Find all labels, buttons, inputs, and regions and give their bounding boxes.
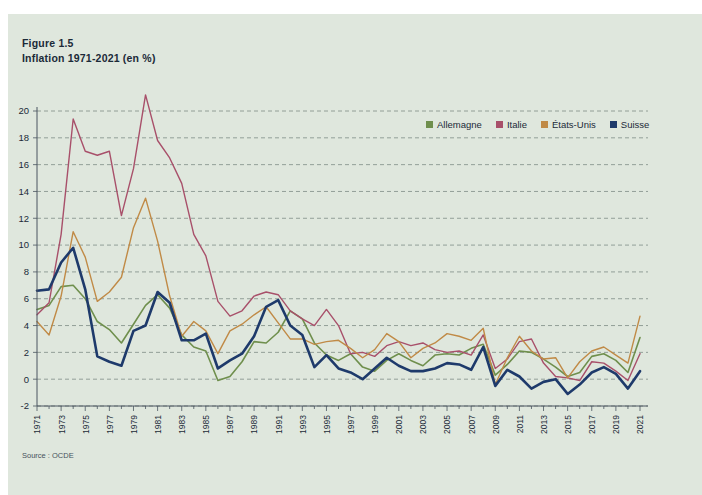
inflation-line-chart: -202468101214161820 19711973197519771979… xyxy=(8,14,702,495)
series-line-allemagne xyxy=(37,285,640,380)
legend-swatch-icon xyxy=(610,121,617,128)
x-axis-tick-label: 1975 xyxy=(81,415,91,434)
x-axis-tick-label: 2019 xyxy=(611,415,621,434)
gridlines-group xyxy=(33,111,648,406)
legend-item--tats-unis[interactable]: États-Unis xyxy=(541,119,596,130)
legend-item-italie[interactable]: Italie xyxy=(496,119,527,130)
y-axis-tick-label: 2 xyxy=(24,347,29,358)
y-axis-tick-label: -2 xyxy=(21,400,29,411)
x-axis-tick-label: 2011 xyxy=(515,415,525,434)
x-axis-tick-label: 2009 xyxy=(491,415,501,434)
x-axis-tick-label: 1981 xyxy=(153,415,163,434)
x-axis-tick-label: 2021 xyxy=(635,415,645,434)
y-axis-tick-label: 4 xyxy=(24,320,29,331)
y-axis-tick-label: 8 xyxy=(24,266,29,277)
axis-tickmarks xyxy=(37,406,640,411)
y-axis-labels: -202468101214161820 xyxy=(18,105,29,411)
x-axis-tick-label: 2005 xyxy=(442,415,452,434)
chart-plot-area: -202468101214161820 19711973197519771979… xyxy=(8,14,702,495)
legend-label: États-Unis xyxy=(552,119,596,130)
legend-item-allemagne[interactable]: Allemagne xyxy=(426,119,482,130)
x-axis-tick-label: 2015 xyxy=(563,415,573,434)
x-axis-tick-label: 1995 xyxy=(322,415,332,434)
legend-label: Allemagne xyxy=(437,119,482,130)
series-line-suisse xyxy=(37,248,640,394)
legend-label: Italie xyxy=(507,119,527,130)
x-axis-tick-label: 2013 xyxy=(539,415,549,434)
figure-panel: Figure 1.5 Inflation 1971-2021 (en %) -2… xyxy=(8,14,702,495)
legend-label: Suisse xyxy=(621,119,650,130)
x-axis-tick-label: 2001 xyxy=(394,415,404,434)
x-axis-tick-label: 1997 xyxy=(346,415,356,434)
x-axis-tick-label: 1985 xyxy=(201,415,211,434)
legend-swatch-icon xyxy=(426,121,433,128)
series-lines-group xyxy=(37,95,640,394)
y-axis-tick-label: 0 xyxy=(24,374,29,385)
y-axis-tick-label: 18 xyxy=(18,132,29,143)
x-axis-tick-label: 2017 xyxy=(587,415,597,434)
x-axis-tick-label: 1979 xyxy=(129,415,139,434)
chart-legend: AllemagneItalieÉtats-UnisSuisse xyxy=(426,119,649,130)
legend-swatch-icon xyxy=(541,121,548,128)
y-axis-tick-label: 6 xyxy=(24,293,29,304)
y-axis-tick-label: 20 xyxy=(18,105,29,116)
y-axis-tick-label: 12 xyxy=(18,213,29,224)
x-axis-tick-label: 1993 xyxy=(298,415,308,434)
y-axis-tick-label: 16 xyxy=(18,159,29,170)
x-axis-tick-label: 1991 xyxy=(274,415,284,434)
x-axis-tick-label: 1999 xyxy=(370,415,380,434)
x-axis-tick-label: 1977 xyxy=(105,415,115,434)
x-axis-tick-label: 1989 xyxy=(249,415,259,434)
x-axis-labels: 1971197319751977197919811983198519871989… xyxy=(32,415,645,434)
y-axis-tick-label: 14 xyxy=(18,186,29,197)
x-axis-tick-label: 2007 xyxy=(467,415,477,434)
legend-swatch-icon xyxy=(496,121,503,128)
y-axis-tick-label: 10 xyxy=(18,239,29,250)
x-axis-tick-label: 1973 xyxy=(57,415,67,434)
x-axis-tick-label: 1971 xyxy=(32,415,42,434)
x-axis-tick-label: 2003 xyxy=(418,415,428,434)
series-line--tats-unis xyxy=(37,198,640,384)
legend-item-suisse[interactable]: Suisse xyxy=(610,119,650,130)
x-axis-tick-label: 1987 xyxy=(225,415,235,434)
source-note: Source : OCDE xyxy=(22,451,74,460)
x-axis-tick-label: 1983 xyxy=(177,415,187,434)
